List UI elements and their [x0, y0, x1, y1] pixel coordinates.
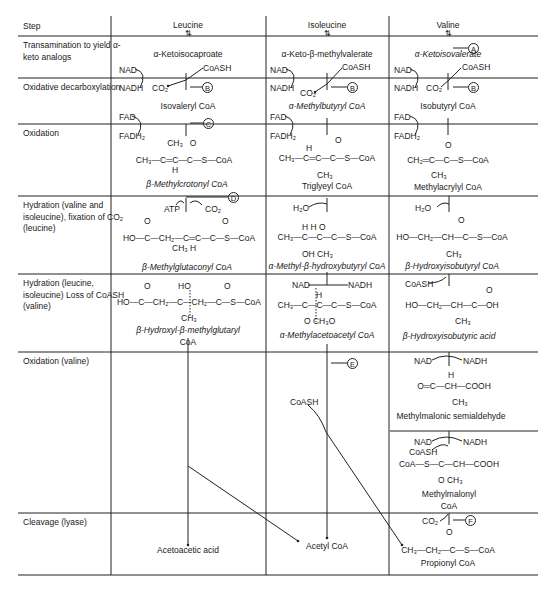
valine-mmc-coa: CoA [441, 501, 458, 511]
struct-text: OH CH₃ [302, 249, 333, 259]
struct-text: O CH₃O [304, 316, 335, 326]
struct-text: O [224, 281, 231, 291]
isoleucine-cleave: Acetyl CoA [306, 541, 348, 551]
struct-text: O [446, 527, 453, 537]
struct-text: HO [178, 281, 191, 291]
valine-oxid: Methylacrylyl CoA [414, 182, 482, 192]
header-step: Step [23, 21, 41, 31]
leucine-hmg-coa: CoA [180, 337, 197, 347]
nad-label: NAD [292, 280, 310, 290]
struct-text: O [190, 138, 197, 148]
struct-text: O═C—CH—COOH [417, 381, 491, 391]
fadh2-label: FADH₂ [119, 131, 145, 141]
leucine-hmg: β-Hydroxyl-β-methylglutaryl [136, 325, 240, 335]
struct-text: O [144, 281, 151, 291]
fadh2-label: FADH₂ [394, 131, 420, 141]
nadh-label: NADH [394, 83, 418, 93]
nadh-label: NADH [463, 356, 487, 366]
marker-f: F [465, 515, 476, 526]
valine-hyd: β-Hydroxyisobutyryl CoA [405, 261, 499, 271]
valine-mmc: Methylmalonyl [422, 489, 476, 499]
leucine-oxid: β-Methylcrotonyl CoA [146, 179, 227, 189]
struct-text: H [316, 290, 322, 300]
nad-label: NAD [270, 65, 288, 75]
marker-c: C [203, 118, 214, 129]
h2o-label: H₂O [293, 203, 309, 213]
fad-label: FAD [394, 112, 411, 122]
marker-d: D [228, 192, 239, 203]
atp-label: ATP [164, 204, 180, 214]
nadh-label: NADH [463, 437, 487, 447]
struct-text: CH₃ [431, 170, 447, 180]
marker-b: B [202, 82, 213, 93]
fad-label: FAD [119, 112, 136, 122]
struct-text: HO—CH₂—CH—C—S—CoA [396, 232, 507, 242]
valine-decarb: Isobutyryl CoA [420, 101, 475, 111]
struct-text: H H O [302, 222, 326, 232]
co2-label: CO₂ [426, 83, 442, 93]
struct-text: CH₃ [317, 170, 333, 180]
leucine-keto: α-Ketoisocaproate [153, 49, 222, 59]
coash-label: CoASH [462, 62, 490, 72]
isoleucine-hyd: α-Methyl-β-hydroxybutyryl CoA [269, 261, 386, 271]
step-hydration-loss: Hydration (leucine, isoleucine) Loss of … [23, 278, 128, 313]
coash-label: CoASH [342, 62, 370, 72]
nad-label: NAD [394, 65, 412, 75]
step-oxidation: Oxidation [23, 128, 128, 140]
step-transamination: Transamination to yield α-keto analogs [23, 40, 128, 63]
struct-text: HO—C—CH₂—C—CH₂—C—S—CoA [117, 297, 261, 307]
reversible-arrow-icon: ⇅ [185, 29, 192, 39]
isoleucine-oxid: Triglyeyl CoA [302, 181, 352, 191]
leucine-hyd: β-Methylglutaconyl CoA [142, 262, 232, 272]
struct-text: H [172, 165, 178, 175]
struct-text: CH₃—C═C—C—S—CoA [136, 155, 232, 165]
isoleucine-decarb: α-Methylbutyryl CoA [289, 101, 366, 111]
reversible-arrow-icon: ⇅ [324, 29, 331, 39]
nad-label: NAD [119, 65, 137, 75]
nadh-label: NADH [119, 83, 143, 93]
struct-text: O [445, 140, 452, 150]
struct-text: CH₃ [167, 138, 183, 148]
co2-label: CO₂ [205, 204, 221, 214]
struct-text: HO—CH₂—CH—C—OH [405, 300, 499, 310]
struct-text: CH₃ [446, 249, 462, 259]
struct-text: CH₃—C—C—C—S—CoA [278, 300, 377, 310]
struct-text: O [335, 135, 342, 145]
struct-text: CH₃ [452, 397, 468, 407]
marker-e: E [347, 358, 358, 369]
leucine-cleave: Acetoacetic acid [157, 545, 219, 555]
struct-text: CH₂═C—C—S—CoA [407, 155, 489, 165]
step-oxidative-decarboxylation: Oxidative decarboxylation [23, 82, 128, 94]
valine-acid: β-Hydroxyisobutyric acid [403, 331, 496, 341]
isoleucine-keto: α-Keto-β-methylvalerate [281, 49, 372, 59]
step-oxidation-valine: Oxidation (valine) [23, 356, 128, 368]
struct-text: O [144, 216, 151, 226]
coash-label: CoASH [290, 397, 318, 407]
fadh2-label: FADH₂ [270, 131, 296, 141]
struct-text: CH₃—C—C—C—S—CoA [278, 232, 377, 242]
struct-text: O [222, 216, 229, 226]
marker-b: B [468, 82, 479, 93]
co2-label: CO₂ [422, 516, 438, 526]
nad-label: NAD [414, 356, 432, 366]
struct-text: HO—C—CH₂—C═C—C—S—CoA [123, 233, 255, 243]
fad-label: FAD [270, 112, 287, 122]
struct-text: CH₃ H [172, 243, 196, 253]
step-cleavage: Cleavage (lyase) [23, 517, 128, 529]
struct-text: CoA—S—C—CH—COOH [399, 459, 499, 469]
valine-prop: Propionyl CoA [421, 558, 475, 568]
coash-label: CoASH [405, 279, 433, 289]
marker-b: B [347, 82, 358, 93]
struct-text: CH₃—CH₂—C—S—CoA [401, 545, 495, 555]
struct-text: O [458, 215, 465, 225]
nadh-label: NADH [348, 280, 372, 290]
struct-text: CH₃ [181, 313, 197, 323]
coash-label: CoASH [409, 447, 437, 457]
valine-keto: α-Ketoisovalerate [415, 49, 481, 59]
coash-label: CoASH [203, 63, 231, 73]
nad-label: NAD [414, 437, 432, 447]
reversible-arrow-icon: ⇅ [445, 29, 452, 39]
struct-text: CH₃—C═C—C—S—CoA [279, 153, 375, 163]
co2-label: CO₂ [300, 88, 316, 98]
struct-text: H [306, 143, 312, 153]
